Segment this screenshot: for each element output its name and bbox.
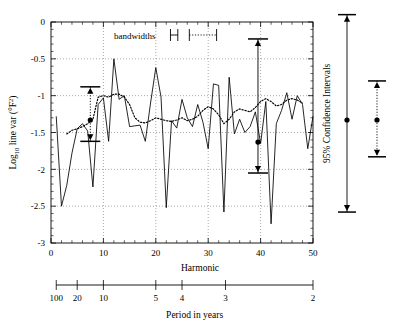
error-bar-right-arrow-up [255, 40, 261, 46]
period-tick-label: 4 [180, 293, 185, 303]
xtick-label: 30 [204, 248, 214, 258]
period-tick-label: 20 [73, 293, 83, 303]
ci-dotted-arrow-down [374, 150, 380, 156]
period-tick-label: 2 [311, 293, 316, 303]
ytick-label: -2.5 [31, 201, 46, 211]
y-axis-title: Log10 line var (°F2) [7, 96, 20, 170]
period-tick-label: 5 [154, 293, 159, 303]
xtick-label: 0 [49, 248, 54, 258]
ci-dotted-center-dot [374, 117, 379, 122]
bandwidths-legend-label: bandwidths [114, 31, 156, 41]
xtick-label: 40 [256, 248, 266, 258]
x-axis-title: Harmonic [181, 263, 219, 273]
error-bar-right-arrow-down [255, 166, 261, 172]
ci-solid-center-dot [344, 117, 349, 122]
ci-panel-label: 95% Confidence Intervals [322, 63, 332, 162]
ci-solid-arrow-up [344, 16, 350, 22]
chart-svg: 0-0.5-1-1.5-2-2.5-301020304050bandwidths… [0, 0, 395, 329]
period-tick-label: 100 [49, 293, 63, 303]
ytick-label: -0.5 [31, 54, 46, 64]
error-bar-right-center-dot [255, 139, 260, 144]
xtick-label: 10 [99, 248, 109, 258]
ytick-label: 0 [41, 17, 46, 27]
ci-dotted-arrow-up [374, 82, 380, 88]
ci-solid-arrow-down [344, 205, 350, 211]
period-tick-label: 10 [99, 293, 109, 303]
ytick-label: -1 [38, 91, 46, 101]
period-tick-label: 3 [223, 293, 228, 303]
ytick-label: -2 [38, 165, 46, 175]
error-bar-left-arrow-up [87, 88, 93, 94]
xtick-label: 50 [309, 248, 319, 258]
figure-root: 0-0.5-1-1.5-2-2.5-301020304050bandwidths… [0, 0, 395, 329]
period-axis-title: Period in years [166, 310, 223, 320]
xtick-label: 20 [151, 248, 161, 258]
ytick-label: -1.5 [31, 128, 46, 138]
error-bar-left-center-dot [88, 117, 93, 122]
ytick-label: -3 [38, 238, 46, 248]
